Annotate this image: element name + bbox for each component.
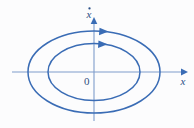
outer-orbit-direction-arrow [99,28,109,35]
xdot-axis-label: x [86,8,92,20]
xdot-axis-label-group: x [86,7,92,20]
x-axis-label: x [180,75,186,87]
xdot-axis-arrowhead [91,17,98,24]
xdot-overdot-icon [88,7,90,9]
phase-portrait-canvas: 0 x x [0,0,194,128]
inner-orbit-direction-arrow [98,41,108,48]
phase-portrait-figure: 0 x x [0,0,194,128]
origin-label: 0 [84,75,90,87]
